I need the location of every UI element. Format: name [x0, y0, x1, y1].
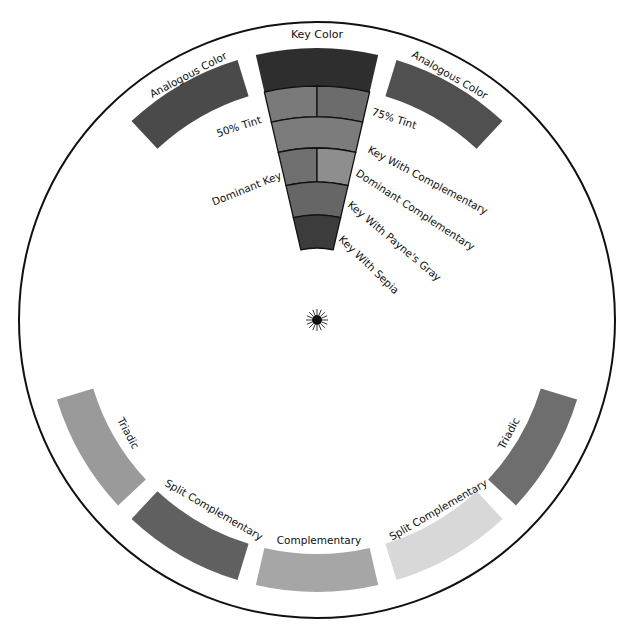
wedge-band-key-with-complementary: [271, 117, 362, 152]
segment-complementary: [256, 548, 378, 592]
label-dominant-key: Dominant Key: [210, 169, 283, 208]
label-key-color: Key Color: [291, 28, 344, 41]
color-wheel-diagram: Key Color Analogous Color Analogous Colo…: [0, 0, 631, 638]
label-75-tint: 75% Tint: [370, 105, 418, 131]
key-wedge: [264, 86, 369, 250]
sun-burst-icon: [306, 309, 328, 331]
label-complementary: Complementary: [277, 534, 361, 546]
label-key-with-complementary: Key With Complementary: [366, 143, 490, 217]
wedge-band-dominant-left: [278, 148, 317, 186]
wedge-band-key-with-sepia: [293, 215, 340, 250]
label-50-tint: 50% Tint: [215, 113, 263, 139]
wedge-band-key-with-paynes-gray: [286, 182, 348, 218]
wedge-band-dominant-right: [317, 148, 356, 186]
